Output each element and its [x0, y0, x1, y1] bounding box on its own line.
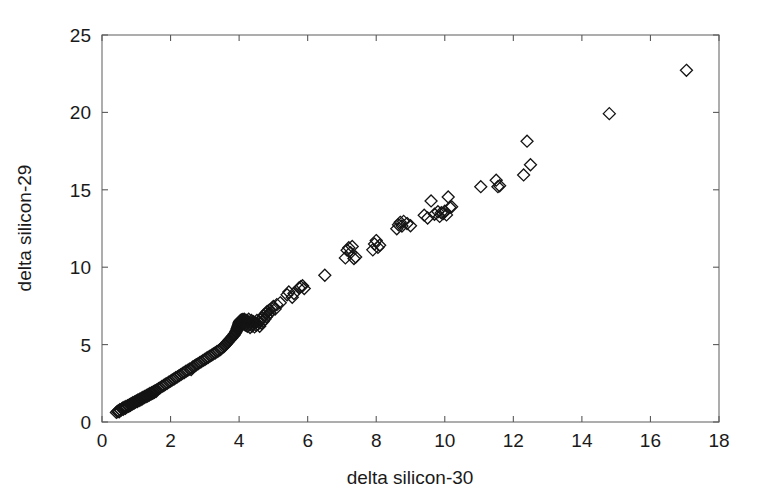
x-tick-label: 18: [708, 430, 729, 451]
x-tick-label: 4: [234, 430, 245, 451]
y-tick-label: 0: [80, 412, 91, 433]
x-tick-label: 16: [640, 430, 661, 451]
x-tick-label: 2: [165, 430, 176, 451]
x-tick-label: 10: [434, 430, 455, 451]
y-tick-label: 15: [70, 180, 91, 201]
x-axis-label: delta silicon-30: [347, 467, 474, 488]
y-axis-label: delta silicon-29: [14, 165, 35, 292]
y-tick-label: 10: [70, 257, 91, 278]
scatter-plot-figure: 024681012141618 0510152025 delta silicon…: [0, 0, 757, 499]
y-tick-label: 20: [70, 102, 91, 123]
x-tick-label: 12: [503, 430, 524, 451]
x-tick-label: 6: [302, 430, 313, 451]
plot-canvas: 024681012141618 0510152025 delta silicon…: [0, 0, 757, 499]
x-tick-label: 8: [371, 430, 382, 451]
x-tick-label: 0: [97, 430, 108, 451]
y-tick-label: 5: [80, 335, 91, 356]
y-tick-label: 25: [70, 25, 91, 46]
x-tick-label: 14: [571, 430, 593, 451]
